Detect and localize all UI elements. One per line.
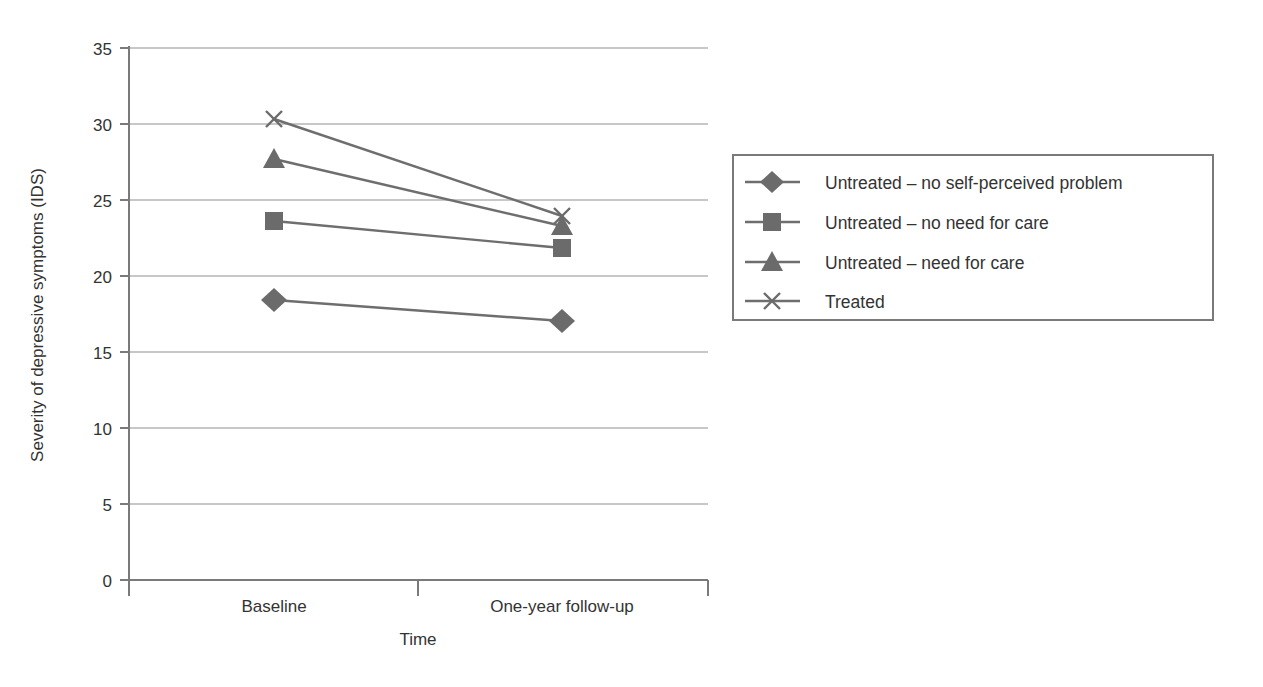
y-tick-label-10: 10: [93, 420, 112, 439]
legend-label-treated: Treated: [825, 292, 885, 312]
series-untreated-no-need-for-care-marker-followup: [553, 239, 571, 257]
y-tick-label-0: 0: [103, 572, 112, 591]
y-axis-title: Severity of depressive symptoms (IDS): [28, 168, 47, 462]
chart-background: [0, 0, 1263, 687]
legend-label-untreated-no-need-for-care: Untreated – no need for care: [825, 213, 1049, 233]
x-tick-label-baseline: Baseline: [241, 597, 306, 616]
x-axis-title: Time: [399, 630, 436, 649]
y-tick-label-30: 30: [93, 116, 112, 135]
legend-label-untreated-no-self-perceived-problem: Untreated – no self-perceived problem: [825, 173, 1123, 193]
y-tick-label-20: 20: [93, 268, 112, 287]
y-tick-label-5: 5: [103, 496, 112, 515]
line-chart: 35 30 25 20 15 10 5 0 Severity of depres…: [0, 0, 1263, 687]
square-icon: [763, 213, 781, 231]
y-tick-label-25: 25: [93, 192, 112, 211]
series-untreated-no-need-for-care-marker-baseline: [265, 212, 283, 230]
legend-label-untreated-need-for-care: Untreated – need for care: [825, 253, 1024, 273]
chart-figure: 35 30 25 20 15 10 5 0 Severity of depres…: [0, 0, 1263, 687]
y-tick-label-35: 35: [93, 40, 112, 59]
y-tick-label-15: 15: [93, 344, 112, 363]
x-tick-label-followup: One-year follow-up: [490, 597, 634, 616]
chart-legend: Untreated – no self-perceived problem Un…: [733, 155, 1213, 320]
